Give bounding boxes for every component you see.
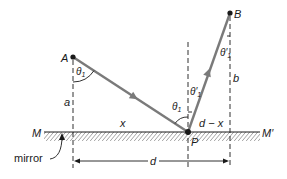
incident-ray xyxy=(73,57,188,132)
reflected-ray-arrow-icon xyxy=(203,67,213,77)
angle-arc-P-incident xyxy=(175,117,188,124)
label-B: B xyxy=(234,8,241,20)
label-d: d xyxy=(150,155,157,167)
dimension-d-right-arrow-icon xyxy=(223,159,229,164)
angle-label-P-reflected: θ′1 xyxy=(190,86,201,98)
point-B xyxy=(227,10,232,15)
point-A xyxy=(70,54,75,59)
point-P xyxy=(185,129,191,135)
label-P: P xyxy=(191,136,199,148)
label-A: A xyxy=(60,52,68,64)
label-d-minus-x: d − x xyxy=(199,117,224,129)
label-b: b xyxy=(233,72,239,84)
label-a: a xyxy=(64,96,70,108)
angle-label-P-incident: θ1 xyxy=(172,101,181,113)
mirror-caption: mirror xyxy=(14,152,43,164)
dimension-d-left-arrow-icon xyxy=(74,159,80,164)
mirror-hatching xyxy=(44,132,260,141)
label-M-prime: M′ xyxy=(262,127,274,139)
angle-label-A: θ1 xyxy=(76,66,85,78)
label-M: M xyxy=(32,127,42,139)
mirror-reflection-diagram: A B P M M′ mirror a b x d − x d θ1 θ1 θ′… xyxy=(0,0,287,179)
label-x: x xyxy=(119,117,126,129)
